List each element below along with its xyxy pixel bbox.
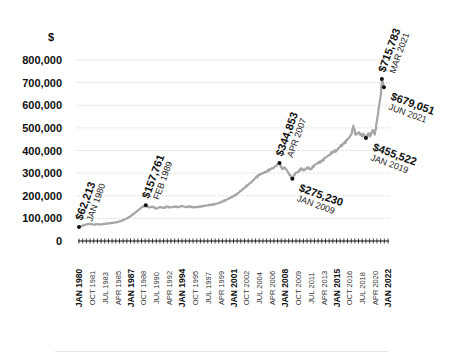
x-tick-label: JAN 2008 <box>280 269 290 308</box>
y-tick-label: 400,000 <box>22 145 62 157</box>
x-tick-label: JAN 1994 <box>177 269 187 308</box>
x-tick-label: APR 2006 <box>268 271 277 305</box>
x-axis-tick-labels: JAN 1980OCT 1981JUL 1983APR 1985JAN 1987… <box>74 269 393 308</box>
y-tick-label: 100,000 <box>22 212 62 224</box>
bottom-divider <box>55 351 388 352</box>
annotation-label: $679,051JUN 2021 <box>387 90 436 125</box>
annotation-label: $275,230JAN 2009 <box>296 181 345 216</box>
annotation-label: $157,761FEB 1989 <box>139 153 174 201</box>
x-axis <box>78 239 389 244</box>
line-chart: $ 0100,000200,000300,000400,000500,00060… <box>0 0 456 353</box>
x-tick-label: JAN 2015 <box>332 269 342 308</box>
data-point-marker <box>382 85 386 89</box>
y-tick-label: 0 <box>56 235 62 247</box>
data-point-marker <box>364 136 368 140</box>
y-tick-label: 300,000 <box>22 167 62 179</box>
data-point-marker <box>144 203 148 207</box>
x-tick-label: OCT 1988 <box>139 271 148 305</box>
y-tick-label: 600,000 <box>22 99 62 111</box>
x-tick-label: JUL 2011 <box>307 272 316 303</box>
annotation-label: $715,783MAR 2021 <box>375 27 411 75</box>
x-tick-label: JAN 2022 <box>383 269 393 308</box>
x-tick-label: APR 1985 <box>114 271 123 305</box>
x-tick-label: JUL 2004 <box>255 272 264 304</box>
data-point-marker <box>290 177 294 181</box>
x-tick-label: JAN 1987 <box>126 269 136 308</box>
x-tick-label: OCT 2016 <box>345 271 354 305</box>
x-tick-label: JUL 1997 <box>204 272 213 304</box>
annotation-label: $455,522JAN 2019 <box>369 141 418 176</box>
x-tick-label: APR 2013 <box>320 271 329 305</box>
x-tick-label: APR 2020 <box>371 271 380 305</box>
x-tick-label: JUL 1990 <box>152 272 161 304</box>
annotation-label: $62,213JAN 1980 <box>73 180 108 222</box>
x-tick-label: OCT 1995 <box>191 271 200 305</box>
x-tick-label: JUL 2018 <box>358 272 367 304</box>
data-point-marker <box>380 77 384 81</box>
data-point-marker <box>277 161 281 165</box>
y-tick-label: 500,000 <box>22 122 62 134</box>
y-axis-tick-labels: 0100,000200,000300,000400,000500,000600,… <box>22 54 62 247</box>
y-tick-label: 800,000 <box>22 54 62 66</box>
y-tick-label: 200,000 <box>22 190 62 202</box>
x-tick-label: JUL 1983 <box>101 272 110 304</box>
x-tick-label: JAN 1980 <box>74 269 84 308</box>
data-point-marker <box>77 225 81 229</box>
x-tick-label: APR 1999 <box>217 271 226 305</box>
x-tick-label: JAN 2001 <box>229 269 239 308</box>
x-tick-label: OCT 1981 <box>88 271 97 305</box>
x-tick-label: OCT 2009 <box>294 271 303 305</box>
y-axis-unit-label: $ <box>48 31 54 43</box>
y-tick-label: 700,000 <box>22 77 62 89</box>
annotation-label: $344,853APR 2007 <box>273 110 308 158</box>
x-tick-label: APR 1992 <box>165 271 174 305</box>
x-tick-label: OCT 2002 <box>242 271 251 305</box>
